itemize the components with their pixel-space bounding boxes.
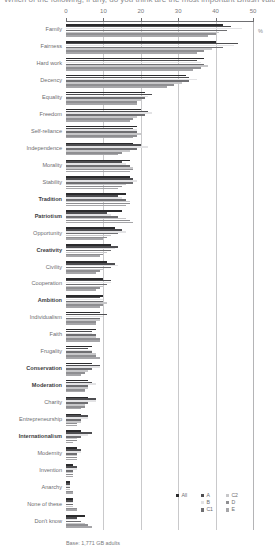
category-label: Entrepreneurship xyxy=(19,417,62,423)
chart-container: Which of the following, if any, do you t… xyxy=(0,0,275,555)
bar-group: Equality xyxy=(66,90,253,107)
legend-item-c1[interactable]: C1 xyxy=(201,506,213,513)
category-label: Decency xyxy=(40,78,62,84)
category-label: Self-reliance xyxy=(31,129,62,135)
category-label: Patriotism xyxy=(35,214,62,220)
legend-item-all[interactable]: All xyxy=(176,492,187,499)
bar-e xyxy=(66,492,73,494)
category-label: Opportunity xyxy=(33,231,62,237)
bar-group: Creativity xyxy=(66,242,253,259)
bar-e xyxy=(66,306,100,308)
legend-label: C2 xyxy=(231,493,238,498)
bar-e xyxy=(66,103,137,105)
legend-column: All xyxy=(176,492,187,499)
bar-e xyxy=(66,357,100,359)
category-label: Cooperation xyxy=(32,281,62,287)
bar-group: Internationalism xyxy=(66,428,253,445)
bar-e xyxy=(66,509,77,511)
tick-label: 20 xyxy=(137,8,144,14)
bar-group: Individualism xyxy=(66,310,253,327)
bar-e xyxy=(66,255,100,257)
bar-group: Family xyxy=(66,22,253,39)
bar-group: Modernity xyxy=(66,445,253,462)
bar-e xyxy=(66,86,167,88)
tick-label: 10 xyxy=(100,8,107,14)
bar-group: Charity xyxy=(66,395,253,412)
legend-swatch-icon xyxy=(226,508,229,511)
category-label: Faith xyxy=(50,332,62,338)
legend-label: B xyxy=(206,500,209,505)
tick-label: 0 xyxy=(64,8,67,14)
bar-e xyxy=(66,323,96,325)
page-title: Which of the following, if any, do you t… xyxy=(4,0,275,4)
legend-label: C1 xyxy=(206,507,213,512)
bar-group: Ambition xyxy=(66,293,253,310)
bar-e xyxy=(66,222,133,224)
category-label: Frugality xyxy=(41,349,62,355)
tick-label: 40 xyxy=(212,8,219,14)
bar-group: Moderation xyxy=(66,378,253,395)
bar-group: Hard work xyxy=(66,56,253,73)
category-label: Stability xyxy=(42,180,62,186)
bar-e xyxy=(66,442,73,444)
bar-group: Independence xyxy=(66,141,253,158)
bar-e xyxy=(66,205,126,207)
bar-group: Decency xyxy=(66,73,253,90)
category-label: Hard work xyxy=(37,61,63,67)
bar-e xyxy=(66,289,96,291)
category-label: Moderation xyxy=(32,383,62,389)
bar-e xyxy=(66,476,73,478)
bar-e xyxy=(66,52,197,54)
legend-label: E xyxy=(231,507,234,512)
bar-group: Fairness xyxy=(66,39,253,56)
legend-label: D xyxy=(231,500,235,505)
bar-e xyxy=(66,459,77,461)
tick-label: 30 xyxy=(175,8,182,14)
bar-e xyxy=(66,35,208,37)
bar-group: Cooperation xyxy=(66,276,253,293)
bar-group: Tradition xyxy=(66,191,253,208)
category-label: Family xyxy=(46,27,62,33)
legend-item-a[interactable]: A xyxy=(201,492,213,499)
bar-group: Faith xyxy=(66,327,253,344)
bar-e xyxy=(66,526,92,528)
bar-group: Self-reliance xyxy=(66,124,253,141)
axis-unit-label: % xyxy=(258,28,263,34)
bar-group: Civility xyxy=(66,259,253,276)
bar-group: Frugality xyxy=(66,344,253,361)
bar-group: Freedom xyxy=(66,107,253,124)
category-label: Morality xyxy=(42,163,62,169)
bar-e xyxy=(66,137,133,139)
legend-item-c2[interactable]: C2 xyxy=(226,492,238,499)
bar-e xyxy=(66,425,77,427)
category-label: Tradition xyxy=(38,197,62,203)
bar-e xyxy=(66,340,100,342)
legend-column: C2DE xyxy=(226,492,238,514)
category-label: Equality xyxy=(42,95,62,101)
bar-group: Patriotism xyxy=(66,208,253,225)
legend-item-d[interactable]: D xyxy=(226,499,238,506)
bar-group: Invention xyxy=(66,462,253,479)
tick-mark xyxy=(253,18,254,22)
legend-swatch-icon xyxy=(226,494,229,497)
category-label: Civility xyxy=(46,265,62,271)
legend-label: All xyxy=(181,493,187,498)
bar-group: Opportunity xyxy=(66,225,253,242)
chart-legend: AllABC1C2DE xyxy=(176,492,250,516)
legend-swatch-icon xyxy=(176,494,179,497)
legend-swatch-icon xyxy=(201,501,204,504)
legend-label: A xyxy=(206,493,209,498)
category-label: None of these xyxy=(27,502,62,508)
bar-e xyxy=(66,188,118,190)
bar-e xyxy=(66,171,130,173)
legend-item-b[interactable]: B xyxy=(201,499,213,506)
category-label: Independence xyxy=(27,146,62,152)
bar-e xyxy=(66,238,103,240)
legend-item-e[interactable]: E xyxy=(226,506,238,513)
category-label: Individualism xyxy=(30,315,62,321)
category-label: Internationalism xyxy=(19,434,62,440)
bar-e xyxy=(66,120,130,122)
bar-e xyxy=(66,272,96,274)
chart-footnote: Base: 1,771 GB adults xyxy=(66,540,120,546)
bar-group: Conservation xyxy=(66,361,253,378)
